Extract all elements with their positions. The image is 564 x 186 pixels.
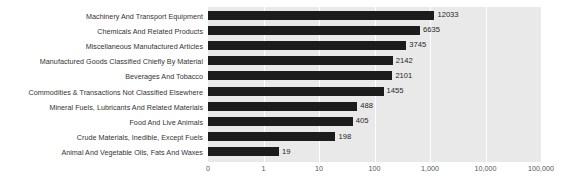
bar-value-label: 2101 (395, 71, 412, 80)
bar-value-label: 3745 (409, 40, 426, 49)
category-label: Crude Materials, Inedible, Except Fuels (0, 133, 203, 142)
x-tick-label: 0 (206, 164, 210, 174)
bar-chart: Machinery And Transport EquipmentChemica… (0, 0, 564, 186)
category-axis-labels: Machinery And Transport EquipmentChemica… (0, 9, 203, 161)
category-label: Manufactured Goods Classified Chiefly By… (0, 57, 203, 66)
x-tick-label: 100 (369, 164, 381, 174)
bar-value-label: 1455 (387, 86, 404, 95)
bar-value-labels: 120336635374521422101145548840519819 (208, 7, 564, 162)
category-label: Miscellaneous Manufactured Articles (0, 42, 203, 51)
category-label: Machinery And Transport Equipment (0, 12, 203, 21)
bar-value-label: 405 (356, 116, 369, 125)
category-label: Food And Live Animals (0, 118, 203, 127)
x-tick-label: 1,000 (421, 164, 439, 174)
bar-value-label: 19 (282, 147, 290, 156)
category-label: Chemicals And Related Products (0, 27, 203, 36)
x-axis-tick-labels: 01101001,00010,000100,000 (0, 164, 564, 178)
category-label: Animal And Vegetable Oils, Fats And Waxe… (0, 148, 203, 157)
category-label: Beverages And Tobacco (0, 72, 203, 81)
bar-value-label: 12033 (437, 10, 458, 19)
bar-value-label: 488 (360, 101, 373, 110)
bar-value-label: 198 (338, 132, 351, 141)
bar-value-label: 6635 (423, 25, 440, 34)
x-tick-label: 10 (315, 164, 323, 174)
category-label: Mineral Fuels, Lubricants And Related Ma… (0, 103, 203, 112)
bar-value-label: 2142 (396, 56, 413, 65)
x-tick-label: 10,000 (475, 164, 497, 174)
x-tick-label: 1 (262, 164, 266, 174)
x-tick-label: 100,000 (528, 164, 554, 174)
category-label: Commodities & Transactions Not Classifie… (0, 88, 203, 97)
